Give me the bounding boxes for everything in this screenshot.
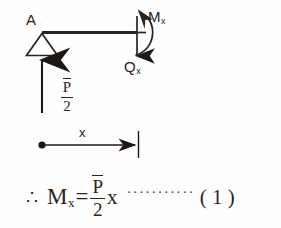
reaction-fraction: P 2 (61, 78, 73, 114)
dimension-label-x: x (79, 126, 86, 139)
support-point-label: A (26, 12, 36, 27)
equation-left-hand-side: Mx (47, 184, 74, 211)
reaction-force-label: P 2 (54, 78, 80, 114)
equation-leader-dots: ··········· (127, 184, 195, 201)
equation-lhs-base: M (47, 184, 67, 209)
dimension-line-x (38, 131, 138, 158)
moment-label-subscript: x (161, 16, 166, 26)
result-equation: ∴ Mx = P 2 x ··········· ( 1 ) (26, 176, 235, 218)
equation-fraction-numerator: P (90, 175, 105, 199)
pin-support-triangle (27, 34, 58, 56)
shear-label-subscript: x (136, 66, 141, 76)
equation-fraction: P 2 (90, 175, 105, 220)
shear-label-base: Q (124, 58, 136, 75)
equation-lhs-subscript: x (67, 195, 74, 210)
shear-label: Qx (124, 59, 141, 76)
equation-numerator-overbar: P (92, 175, 103, 196)
equals-sign: = (75, 184, 88, 210)
moment-label: Mx (148, 9, 166, 26)
equation-fraction-denominator: 2 (90, 199, 105, 220)
moment-label-base: M (148, 8, 161, 25)
equation-variable-x: x (107, 185, 118, 210)
figure-canvas: A Mx Qx P 2 x ∴ Mx = P 2 x ··········· (… (0, 0, 281, 228)
reaction-fraction-numerator: P (61, 78, 73, 98)
shear-force-arrow (128, 16, 146, 56)
equation-number: ( 1 ) (200, 185, 235, 210)
reaction-fraction-denominator: 2 (61, 98, 73, 115)
therefore-symbol: ∴ (26, 186, 38, 209)
reaction-numerator-overbar: P (63, 78, 71, 95)
equation-fraction-stack: P 2 (90, 175, 105, 220)
